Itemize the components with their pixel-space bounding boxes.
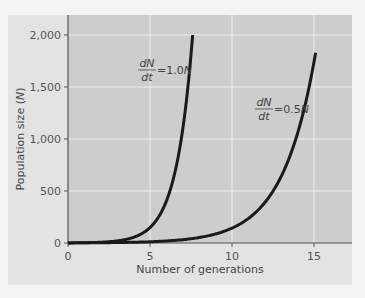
plot-area [68, 15, 352, 243]
svg-text:dN: dN [256, 96, 271, 109]
x-tick-label: 0 [65, 250, 72, 263]
x-tick-label: 5 [147, 250, 154, 263]
y-tick-label: 1,500 [30, 81, 62, 94]
x-axis-ticks: 051015 [65, 243, 322, 263]
x-tick-label: 15 [307, 250, 321, 263]
svg-text:=0.5N: =0.5N [274, 103, 309, 116]
svg-text:=1.0N: =1.0N [157, 64, 192, 77]
y-tick-label: 0 [54, 237, 61, 250]
y-tick-label: 500 [40, 185, 61, 198]
svg-text:dt: dt [258, 110, 270, 123]
population-growth-chart: 05001,0001,5002,000 051015 Number of gen… [0, 0, 365, 298]
y-axis-ticks: 05001,0001,5002,000 [30, 29, 69, 250]
y-tick-label: 2,000 [30, 29, 62, 42]
x-axis-label: Number of generations [136, 263, 264, 276]
svg-text:dt: dt [141, 71, 153, 84]
y-axis-label: Population size (N) [14, 88, 27, 191]
svg-text:dN: dN [139, 57, 154, 70]
y-tick-label: 1,000 [30, 133, 62, 146]
x-tick-label: 10 [225, 250, 239, 263]
